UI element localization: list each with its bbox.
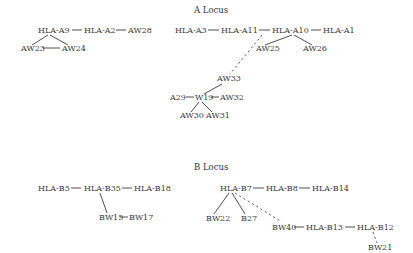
node-w19: W19 — [195, 93, 213, 102]
node-hla-a2: HLA-A2 — [84, 26, 116, 35]
node-hla-b8: HLA-B8 — [266, 184, 298, 193]
node-aw32: AW32 — [219, 93, 244, 102]
node-aw26: AW26 — [302, 44, 327, 53]
node-hla-a1: HLA-A1 — [323, 26, 355, 35]
node-bw17: BW17 — [129, 213, 153, 222]
a-locus-title: A Locus — [193, 5, 228, 15]
node-hla-b14: HLA-B14 — [312, 184, 349, 193]
node-hla-b35: HLA-B35 — [84, 184, 121, 193]
node-bw21: BW21 — [368, 243, 392, 252]
edges-group — [32, 30, 377, 243]
b-locus-title: B Locus — [194, 162, 228, 172]
node-hla-a10: HLA-A10 — [272, 26, 309, 35]
node-a29: A29 — [169, 93, 186, 102]
edge-hla-b7-b27 — [232, 193, 245, 214]
node-bw40: BW40 — [272, 223, 296, 232]
edge-hla-b12-bw21 — [373, 232, 377, 243]
edge-hla-b35-bw15 — [100, 193, 107, 213]
nodes-group: HLA-A9HLA-A2AW28AW23AW24HLA-A3HLA-A11HLA… — [20, 26, 394, 252]
node-hla-b13: HLA-B13 — [306, 223, 343, 232]
node-hla-b12: HLA-B12 — [357, 223, 394, 232]
node-aw28: AW28 — [127, 26, 152, 35]
edge-hla-a11-aw33 — [230, 35, 262, 74]
node-aw31: AW31 — [205, 111, 230, 120]
node-hla-b7: HLA-B7 — [220, 184, 252, 193]
node-bw22: BW22 — [206, 214, 230, 223]
node-bw15: BW15 — [99, 213, 123, 222]
node-hla-a9: HLA-A9 — [38, 26, 70, 35]
node-aw24: AW24 — [61, 44, 86, 53]
node-aw30: AW30 — [179, 111, 204, 120]
node-hla-a11: HLA-A11 — [221, 26, 258, 35]
node-hla-a3: HLA-A3 — [175, 26, 207, 35]
node-aw33: AW33 — [216, 74, 241, 83]
node-hla-b5: HLA-B5 — [38, 184, 70, 193]
node-aw23: AW23 — [20, 44, 45, 53]
node-hla-b18: HLA-B18 — [134, 184, 171, 193]
hla-locus-diagram: A Locus B Locus HLA-A9HLA-A2AW28AW23AW24… — [0, 0, 413, 253]
node-b27: B27 — [241, 214, 257, 223]
node-aw25: AW25 — [255, 44, 280, 53]
edge-hla-b7-bw22 — [214, 193, 229, 214]
